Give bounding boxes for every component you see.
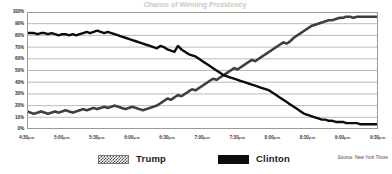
legend-item-trump[interactable]: Trump (98, 150, 166, 168)
y-axis-tick-label: 10% (0, 115, 24, 120)
x-axis-tick-label: 9:30p.m. (358, 135, 392, 141)
x-axis-tick-label: 5:30p.m. (77, 135, 117, 141)
chart-svg (27, 12, 378, 129)
y-axis-tick-label: 20% (0, 103, 24, 108)
y-axis-tick-label: 90% (0, 21, 24, 26)
x-axis-tick-label: 7:00p.m. (183, 135, 223, 141)
x-axis-tick-label: 8:30p.m. (288, 135, 328, 141)
source-prefix: Source: (338, 155, 354, 160)
legend-label-clinton: Clinton (256, 154, 290, 164)
source-attribution: Source: New York Times (338, 154, 388, 161)
y-axis-tick-label: 70% (0, 45, 24, 50)
legend-item-clinton[interactable]: Clinton (218, 150, 290, 168)
legend-label-trump: Trump (136, 154, 166, 164)
series-line-trump (27, 17, 378, 114)
chart-title: Chance of Winning Presidency (60, 0, 330, 9)
x-axis-tick-label: 6:30p.m. (147, 135, 187, 141)
y-axis-tick-label: 0% (0, 126, 24, 131)
clinton-swatch-icon (218, 155, 249, 164)
source-publication: New York Times (355, 155, 388, 160)
x-axis-tick-label: 5:00p.m. (42, 135, 82, 141)
chart-container: Chance of Winning Presidency 100%90%80%7… (0, 0, 392, 174)
plot-area (27, 12, 378, 129)
x-axis-tick-label: 8:00p.m. (253, 135, 293, 141)
trump-swatch-icon (98, 155, 129, 164)
y-axis-tick-label: 50% (0, 68, 24, 73)
y-axis-tick-label: 80% (0, 33, 24, 38)
x-axis-tick-label: 6:00p.m. (112, 135, 152, 141)
y-axis-tick-label: 60% (0, 56, 24, 61)
y-axis-tick-label: 100% (0, 9, 24, 14)
x-axis-tick-label: 9:00p.m. (323, 135, 363, 141)
x-axis-tick-label: 4:30p.m. (7, 135, 47, 141)
chart-legend: Trump Clinton Source: New York Times (0, 150, 392, 174)
x-axis-tick-label: 7:30p.m. (218, 135, 258, 141)
y-axis-tick-label: 40% (0, 80, 24, 85)
y-axis-tick-label: 30% (0, 91, 24, 96)
